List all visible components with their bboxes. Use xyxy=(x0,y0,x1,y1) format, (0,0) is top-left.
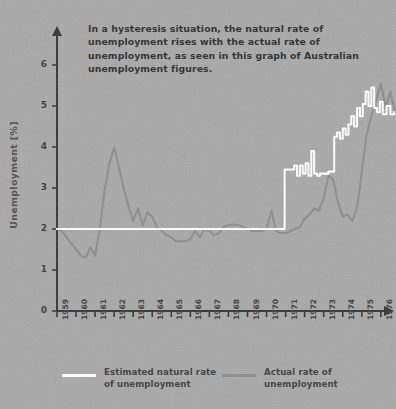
x-tick-label: 1966 xyxy=(194,299,203,320)
x-tick-label: 1975 xyxy=(366,299,375,320)
y-tick-label: 3 xyxy=(33,182,47,192)
x-tick-label: 1967 xyxy=(213,299,222,320)
x-tick-label: 1959 xyxy=(61,299,70,320)
y-tick-label: 6 xyxy=(33,59,47,69)
y-tick-label: 0 xyxy=(33,305,47,315)
x-tick-label: 1961 xyxy=(99,299,108,320)
x-tick-label: 1974 xyxy=(347,299,356,320)
y-tick-label: 5 xyxy=(33,100,47,110)
x-tick-label: 1968 xyxy=(232,299,241,320)
x-tick-label: 1965 xyxy=(175,299,184,320)
x-tick-label: 1971 xyxy=(290,299,299,320)
x-tick-label: 1973 xyxy=(328,299,337,320)
legend-label-natural-rate: Estimated natural rate of unemployment xyxy=(104,366,224,391)
series-line-actual-rate xyxy=(57,83,395,257)
x-tick-label: 1976 xyxy=(385,299,394,320)
legend-swatch-actual-rate xyxy=(222,374,256,377)
legend-swatch-natural-rate xyxy=(62,374,96,377)
x-tick-label: 1972 xyxy=(309,299,318,320)
series-line-natural-rate xyxy=(57,88,394,229)
x-tick-label: 1969 xyxy=(252,299,261,320)
x-tick-label: 1960 xyxy=(80,299,89,320)
x-tick-label: 1963 xyxy=(137,299,146,320)
x-tick-label: 1970 xyxy=(271,299,280,320)
y-tick-label: 2 xyxy=(33,223,47,233)
chart-figure: In a hysteresis situation, the natural r… xyxy=(0,0,396,409)
y-tick-label: 4 xyxy=(33,141,47,151)
chart-plot-area xyxy=(0,0,396,409)
legend-label-actual-rate: Actual rate of unemployment xyxy=(264,366,384,391)
x-tick-label: 1962 xyxy=(118,299,127,320)
x-tick-label: 1964 xyxy=(156,299,165,320)
y-tick-label: 1 xyxy=(33,264,47,274)
